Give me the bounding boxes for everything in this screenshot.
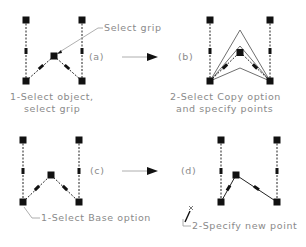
diagram-svg: Select grip (a) 1-Select object, select … — [0, 0, 306, 247]
callout-leader — [183, 219, 191, 226]
grip-square — [218, 199, 225, 206]
midpoint-marker — [276, 168, 279, 174]
grip-square — [274, 199, 281, 206]
midpoint-marker — [81, 48, 84, 54]
midpoint-marker — [269, 48, 272, 54]
base-grip-square — [20, 199, 27, 206]
new-point-cross-icon — [189, 206, 193, 210]
panel-a: Select grip (a) 1-Select object, select … — [10, 17, 162, 115]
moved-grip-square — [233, 172, 240, 179]
grip-square — [274, 137, 281, 144]
midpoint-marker — [78, 168, 81, 174]
grip-square — [76, 199, 83, 206]
callout-specify-new-point: 2-Specify new point — [192, 220, 297, 231]
midpoint-marker — [38, 64, 44, 70]
grip-square — [207, 78, 214, 85]
midpoint-marker — [22, 168, 25, 174]
grip-square — [218, 137, 225, 144]
midpoint-marker — [220, 168, 223, 174]
grip-square — [48, 172, 55, 179]
grip-square — [76, 137, 83, 144]
caption-b-line1: 2-Select Copy option — [170, 91, 281, 102]
arrow-right-icon — [147, 167, 158, 175]
caption-a-line2: select grip — [24, 103, 80, 114]
panel-tag-d: (d) — [181, 165, 196, 176]
grip-square — [79, 17, 86, 24]
arrow-right-icon — [147, 53, 158, 61]
caption-b-line2: and specify points — [176, 103, 273, 114]
grip-square — [207, 17, 214, 24]
pointer-stroke — [185, 211, 190, 222]
arrow-a-to-b — [122, 53, 158, 61]
callout-leader — [24, 207, 40, 218]
grip-square — [23, 17, 30, 24]
midpoint-marker — [64, 64, 70, 70]
selected-grip-square — [51, 53, 58, 60]
panel-tag-a: (a) — [89, 51, 104, 62]
grip-copy-diagram: Select grip (a) 1-Select object, select … — [0, 0, 306, 247]
panel-b: (b) 2-Select Copy option and specify poi… — [170, 17, 281, 115]
grip-square — [20, 137, 27, 144]
grip-square — [23, 78, 30, 85]
callout-select-base: 1-Select Base option — [41, 212, 151, 223]
grip-square — [79, 78, 86, 85]
midpoint-marker — [209, 48, 212, 54]
panel-c: 1-Select Base option (c) — [20, 137, 152, 224]
panel-d: 2-Specify new point (d) — [181, 137, 297, 232]
callout-select-grip: Select grip — [104, 22, 162, 33]
grip-square — [267, 78, 274, 85]
panel-tag-c: (c) — [90, 165, 104, 176]
arrow-c-to-d — [122, 167, 158, 175]
grip-square — [267, 17, 274, 24]
selected-grip-square — [237, 49, 244, 56]
panel-tag-b: (b) — [178, 51, 193, 62]
caption-a-line1: 1-Select object, — [10, 91, 94, 102]
midpoint-marker — [25, 48, 28, 54]
